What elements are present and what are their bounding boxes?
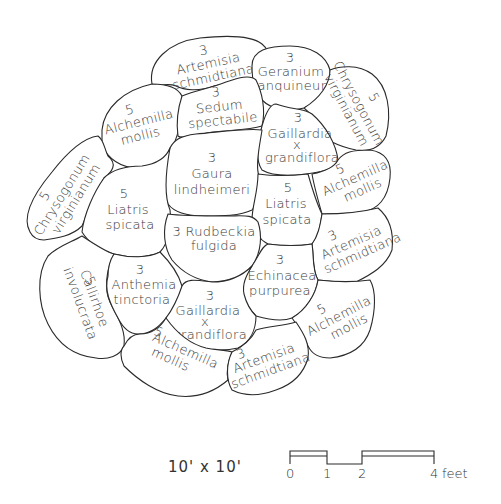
plant-species: tinctoria <box>114 292 171 307</box>
plant-species: grandiflora <box>265 150 339 165</box>
qty: 3 <box>211 84 221 100</box>
qty: 3 <box>208 150 217 165</box>
qty: 3 <box>286 50 295 65</box>
scale-tick-4: 4 <box>430 466 438 481</box>
scale-tick-0: 0 <box>286 466 294 481</box>
plant-species: purpurea <box>249 283 311 298</box>
plant-species: sanquineum <box>250 78 333 93</box>
plant-species: spicata <box>106 217 155 232</box>
qty: 3 <box>206 288 215 303</box>
bed-artemisia-right: 3 Artemisia schmidtiana <box>310 204 403 282</box>
qty: 5 <box>120 186 129 201</box>
garden-plan: 3 Artemisia schmidtiana 3 Geranium sanqu… <box>0 0 501 504</box>
scale-bar: 0 1 2 4 feet <box>286 451 468 481</box>
qty: 3 <box>294 110 303 125</box>
plant-name: Liatris <box>265 196 307 211</box>
plant-species: lindheimeri <box>174 182 250 197</box>
qty: 5 <box>284 180 293 195</box>
plant-name: 3 Rudbeckia <box>172 224 255 239</box>
qty: 3 <box>276 252 285 267</box>
scale-unit: feet <box>442 466 468 481</box>
plant-name: Echinacea <box>247 268 316 283</box>
plan-dimensions: 10' x 10' <box>168 458 242 476</box>
plant-species: spicata <box>263 212 312 227</box>
plant-name: Anthemia <box>111 277 176 292</box>
scale-tick-1: 1 <box>323 466 331 481</box>
qty: 3 <box>136 262 145 277</box>
scale-tick-2: 2 <box>358 466 366 481</box>
bed-gaura: 3 Gaura lindheimeri <box>163 129 262 216</box>
bed-liatris-right: 5 Liatris spicata <box>252 174 322 246</box>
plant-name: Gaura <box>191 166 232 181</box>
plant-name: Geranium <box>258 64 325 79</box>
plant-name: Liatris <box>107 202 149 217</box>
plant-species: fulgida <box>191 238 237 253</box>
